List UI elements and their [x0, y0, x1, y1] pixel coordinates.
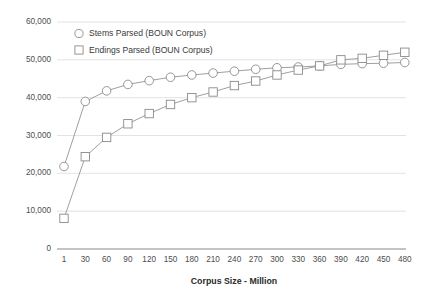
ytick-label: 30,000 [26, 131, 51, 140]
data-point-circle [102, 87, 111, 96]
chart-figure: 60,000 50,000 40,000 30,000 20,000 10,00… [0, 0, 422, 301]
ytick-label: 10,000 [26, 206, 51, 215]
data-point-square [230, 81, 238, 89]
ytick-label: 60,000 [26, 17, 51, 26]
data-point-circle [124, 80, 133, 89]
xtick-label: 30 [81, 255, 91, 264]
series-markers-stems [60, 58, 409, 171]
data-point-circle [379, 59, 388, 68]
square-marker-icon [75, 46, 83, 54]
data-point-square [273, 71, 281, 79]
data-point-square [102, 133, 110, 141]
xtick-label: 150 [164, 255, 178, 264]
data-point-circle [251, 65, 260, 74]
data-point-square [209, 88, 217, 96]
series-line-stems [64, 62, 405, 166]
y-axis-tick-labels: 60,000 50,000 40,000 30,000 20,000 10,00… [26, 17, 51, 253]
data-point-square [124, 120, 132, 128]
data-point-square [252, 77, 260, 85]
xtick-label: 210 [206, 255, 220, 264]
data-point-square [401, 48, 409, 56]
x-axis-tick-labels: 1 30 60 90 120 150 180 210 240 270 300 3… [62, 255, 412, 264]
xtick-label: 480 [398, 255, 412, 264]
xtick-label: 420 [355, 255, 369, 264]
xtick-label: 180 [185, 255, 199, 264]
ytick-label: 0 [46, 244, 51, 253]
data-point-square [145, 109, 153, 117]
data-point-circle [60, 162, 69, 171]
data-point-square [60, 214, 68, 222]
xtick-label: 90 [123, 255, 133, 264]
data-point-square [81, 152, 89, 160]
data-point-circle [209, 69, 218, 78]
xtick-label: 360 [313, 255, 327, 264]
xtick-label: 300 [270, 255, 284, 264]
data-point-square [358, 54, 366, 62]
xtick-label: 390 [334, 255, 348, 264]
circle-marker-icon [75, 29, 83, 37]
xtick-label: 240 [228, 255, 242, 264]
data-point-circle [166, 73, 175, 82]
legend-label-endings: Endings Parsed (BOUN Corpus) [89, 45, 213, 55]
x-axis-title: Corpus Size - Million [191, 276, 278, 286]
data-point-square [379, 51, 387, 59]
data-point-circle [230, 67, 239, 76]
ytick-label: 50,000 [26, 55, 51, 64]
xtick-label: 120 [142, 255, 156, 264]
line-chart-canvas: 60,000 50,000 40,000 30,000 20,000 10,00… [0, 0, 422, 301]
xtick-label: 270 [249, 255, 263, 264]
chart-legend: Stems Parsed (BOUN Corpus) Endings Parse… [75, 28, 213, 54]
data-point-circle [81, 97, 90, 106]
xtick-label: 450 [377, 255, 391, 264]
data-point-square [337, 56, 345, 64]
xtick-label: 1 [62, 255, 67, 264]
ytick-label: 20,000 [26, 168, 51, 177]
data-point-square [188, 93, 196, 101]
legend-label-stems: Stems Parsed (BOUN Corpus) [89, 28, 206, 38]
data-point-circle [401, 58, 410, 67]
series-stems-parsed [60, 58, 409, 171]
xtick-label: 330 [291, 255, 305, 264]
xtick-label: 60 [102, 255, 112, 264]
ytick-label: 40,000 [26, 93, 51, 102]
data-point-square [294, 66, 302, 74]
data-point-square [315, 62, 323, 70]
data-point-circle [145, 76, 154, 85]
data-point-circle [188, 71, 197, 80]
data-point-square [166, 100, 174, 108]
